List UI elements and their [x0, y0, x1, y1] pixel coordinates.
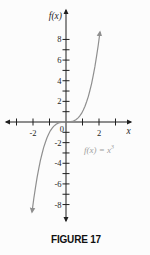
equation-exponent: 3 [111, 144, 114, 150]
x-tick-label: -2 [29, 128, 36, 138]
x-tick-label: 2 [97, 128, 101, 138]
y-tick-label: 6 [57, 55, 61, 65]
y-tick-label: -6 [54, 179, 61, 189]
x-axis-label: x [125, 126, 131, 136]
y-tick-label: -2 [54, 138, 61, 148]
y-tick-label: 8 [57, 34, 61, 44]
equation-label: f(x) = x3 [84, 144, 114, 155]
graph-canvas: -228642-2-4-6-80f(x)x [0, 0, 150, 230]
figure-caption: FIGURE 17 [0, 234, 150, 245]
y-axis-label: f(x) [49, 11, 62, 22]
y-tick-label: -4 [54, 158, 62, 168]
figure-panel: -228642-2-4-6-80f(x)x f(x) = x3 FIGURE 1… [0, 0, 150, 255]
origin-label: 0 [60, 124, 64, 134]
y-tick-label: 2 [57, 96, 61, 106]
y-tick-label: 4 [57, 76, 62, 86]
y-tick-label: -8 [54, 200, 61, 210]
equation-base: f(x) = x [84, 145, 111, 155]
